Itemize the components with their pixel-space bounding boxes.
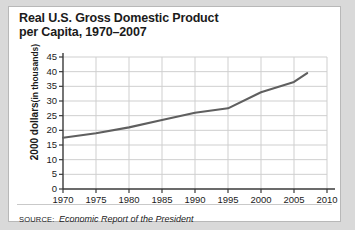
source-label: SOURCE: xyxy=(19,215,55,224)
vertical-gridlines xyxy=(96,57,327,189)
y-tick-label: 5 xyxy=(29,169,57,179)
source-divider xyxy=(17,204,332,205)
series-line-gdp-per-capita xyxy=(63,73,307,138)
y-axis-title-light: (in thousands) xyxy=(30,44,40,103)
tick-marks xyxy=(59,57,327,193)
y-tick-label: 0 xyxy=(29,184,57,194)
y-axis-title-strong: 2000 dollars xyxy=(29,102,40,160)
source-text: Economic Report of the President xyxy=(59,214,194,224)
source-note: SOURCE: Economic Report of the President xyxy=(19,208,194,226)
plot-svg xyxy=(9,7,342,223)
chart-figure: Real U.S. Gross Domestic Product per Cap… xyxy=(8,6,341,222)
y-axis-title: 2000 dollars(in thousands) xyxy=(24,42,42,162)
plot-area: 051015202530354045 197019751980198519901… xyxy=(9,7,342,223)
